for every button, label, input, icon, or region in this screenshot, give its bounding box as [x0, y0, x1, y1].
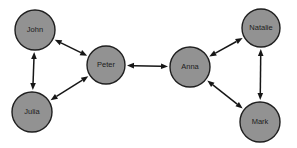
edge-line: [56, 80, 82, 96]
node-anna: Anna: [170, 47, 210, 87]
edge-anna-natalie: [209, 38, 242, 56]
arrowhead-icon: [258, 49, 264, 56]
arrowhead-icon: [258, 93, 264, 100]
arrowhead-icon: [30, 83, 36, 90]
edge-julia-peter: [51, 76, 89, 100]
node-label: John: [27, 25, 43, 34]
node-label: Mark: [252, 117, 269, 126]
edge-john-peter: [55, 40, 87, 56]
arrowhead-icon: [127, 63, 134, 69]
edge-line: [215, 41, 236, 53]
edge-line: [61, 43, 81, 53]
node-label: Anna: [181, 62, 199, 71]
arrowhead-icon: [80, 50, 88, 56]
social-graph-diagram: JohnJuliaPeterAnnaNatalieMark: [0, 0, 297, 148]
arrowhead-icon: [235, 38, 242, 44]
arrowhead-icon: [161, 64, 168, 70]
edge-john-julia: [30, 52, 36, 90]
edge-anna-mark: [207, 81, 242, 109]
node-mark: Mark: [240, 102, 280, 142]
arrowhead-icon: [31, 52, 37, 59]
arrowhead-icon: [55, 40, 63, 46]
edge-line: [213, 85, 237, 104]
edge-natalie-mark: [258, 49, 264, 100]
node-natalie: Natalie: [242, 9, 280, 47]
arrowhead-icon: [81, 76, 88, 82]
node-label: Natalie: [249, 23, 272, 32]
edge-line: [134, 66, 161, 67]
arrowhead-icon: [209, 51, 216, 57]
node-label: Julia: [24, 107, 40, 116]
node-peter: Peter: [87, 46, 125, 84]
graph-canvas: JohnJuliaPeterAnnaNatalieMark: [0, 0, 297, 148]
edge-line: [33, 59, 34, 83]
node-label: Peter: [97, 60, 115, 69]
edge-peter-anna: [127, 63, 168, 69]
node-julia: Julia: [12, 92, 52, 132]
node-john: John: [15, 10, 55, 50]
arrowhead-icon: [51, 94, 58, 100]
